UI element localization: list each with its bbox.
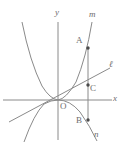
line-l-label: ℓ: [109, 60, 113, 69]
point-c-label: C: [90, 84, 96, 93]
point-b-dot: [86, 118, 89, 121]
point-a-label: A: [76, 36, 83, 45]
figure-canvas: [0, 0, 128, 147]
curve-m-parabola-up: [22, 22, 92, 100]
y-axis-label: y: [55, 8, 59, 17]
origin-label: O: [60, 102, 67, 111]
geometry-figure: y x O m n ℓ A C B: [0, 0, 128, 147]
point-b-label: B: [76, 116, 82, 125]
curve-m-label: m: [89, 10, 96, 19]
curve-n-label: n: [94, 130, 99, 139]
x-axis-label: x: [113, 94, 117, 103]
line-l: [9, 68, 110, 122]
point-a-dot: [86, 46, 89, 49]
